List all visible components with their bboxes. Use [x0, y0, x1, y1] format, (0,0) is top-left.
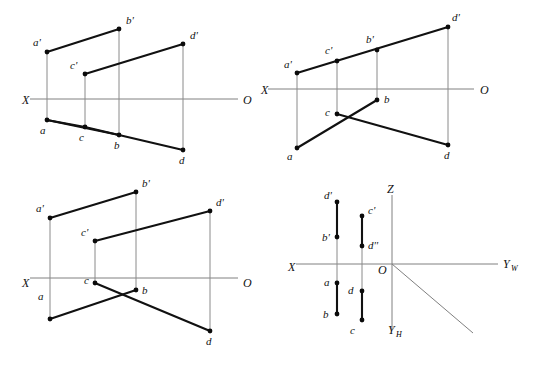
top-left-projection-vertex-label-dp: d' [190, 29, 199, 41]
bottom-left-projection-vertex-dot-d [208, 329, 213, 334]
top-left-projection-vertex-label-ap: a' [33, 36, 42, 48]
top-right-projection-vertex-dot-a [295, 146, 300, 151]
bottom-right-three-axis-projection-vertex-label-cp: c' [368, 204, 376, 216]
top-right-projection-vertex-dot-d [446, 143, 451, 148]
top-left-projection-vertex-dot-c [83, 125, 88, 130]
top-left-projection-axis-label-x: X [21, 93, 30, 107]
top-right-projection-edge-c-d [337, 114, 448, 145]
bottom-left-projection-edge-ap-bp [50, 192, 136, 218]
bottom-left-projection-vertex-dot-ap [48, 216, 53, 221]
bottom-right-three-axis-projection-axis-label-yh-base: Y [388, 323, 396, 337]
top-right-projection-vertex-label-cp: c' [325, 44, 333, 56]
bottom-right-three-axis-projection-vertex-dot-dp [335, 200, 340, 205]
top-left-projection-vertex-dot-cp [83, 72, 88, 77]
top-right-projection-axis-label-o: O [480, 83, 489, 97]
top-left-projection-vertex-label-a: a [40, 124, 46, 136]
bottom-left-projection-vertex-label-c: c [84, 274, 89, 286]
bottom-right-three-axis-projection: d'b'abc'd''dcXOZYWYH [287, 182, 519, 339]
bottom-left-projection-vertex-label-bp: b' [142, 177, 151, 189]
top-left-projection-edge-a-c [47, 120, 85, 127]
top-right-projection-vertex-dot-b [375, 98, 380, 103]
top-right-projection-vertex-label-ap: a' [284, 58, 293, 70]
bottom-left-projection: a'b'c'd'abcdXO [21, 177, 252, 347]
bottom-left-projection-vertex-label-cp: c' [81, 226, 89, 238]
top-right-projection-vertex-label-a: a [287, 150, 293, 162]
top-right-projection: a'c'b'd'acbdXO [260, 11, 489, 162]
bottom-right-three-axis-projection-vertex-label-bp: b' [322, 231, 331, 243]
top-left-projection-vertex-label-bp: b' [126, 14, 135, 26]
top-right-projection-vertex-dot-ap [295, 71, 300, 76]
bottom-right-three-axis-projection-axis-label-yh: YH [388, 323, 403, 339]
top-right-projection-vertex-label-bp: b' [366, 33, 375, 45]
top-right-projection-axis-label-x: X [260, 83, 269, 97]
bottom-right-three-axis-projection-vertex-label-dp: d' [324, 189, 333, 201]
top-left-projection-vertex-dot-d [181, 148, 186, 153]
bottom-right-three-axis-projection-axis-label-yw: YW [503, 257, 519, 273]
top-left-projection-axis-label-o: O [243, 93, 252, 107]
top-left-projection-vertex-dot-a [45, 118, 50, 123]
top-left-projection: a'b'c'd'abcdXO [21, 14, 252, 166]
bottom-left-projection-vertex-dot-dp [208, 209, 213, 214]
top-right-projection-vertex-dot-cp [335, 59, 340, 64]
bottom-left-projection-vertex-dot-b [134, 288, 139, 293]
top-left-projection-edge-cp-dp [85, 44, 183, 74]
bottom-left-projection-vertex-dot-bp [134, 190, 139, 195]
bottom-right-three-axis-projection-axis-label-origin: O [378, 263, 387, 277]
bottom-right-three-axis-projection-bisector-axis [392, 264, 473, 333]
top-left-projection-vertex-dot-bp [117, 27, 122, 32]
bottom-left-projection-edge-cp-dp [95, 211, 210, 241]
bottom-right-three-axis-projection-axis-label-x: X [287, 260, 296, 274]
bottom-right-three-axis-projection-vertex-dot-c [360, 318, 365, 323]
top-left-projection-vertex-dot-ap [45, 50, 50, 55]
top-left-projection-vertex-label-d: d [179, 154, 185, 166]
bottom-right-three-axis-projection-vertex-dot-bp [335, 235, 340, 240]
bottom-right-three-axis-projection-vertex-label-b: b [323, 308, 329, 320]
top-left-projection-vertex-label-cp: c' [70, 59, 78, 71]
bottom-right-three-axis-projection-vertex-dot-b [335, 312, 340, 317]
bottom-right-three-axis-projection-axis-label-yw-base: Y [503, 257, 511, 271]
top-right-projection-vertex-dot-bp [375, 48, 380, 53]
top-left-projection-vertex-label-c: c [79, 131, 84, 143]
bottom-right-three-axis-projection-axis-label-z: Z [387, 182, 394, 196]
bottom-left-projection-edge-c-d [95, 283, 210, 331]
top-left-projection-edge-ap-bp [47, 29, 119, 52]
bottom-left-projection-vertex-label-ap: a' [36, 202, 45, 214]
projection-drawing-canvas: a'b'c'd'abcdXOa'c'b'd'acbdXOa'b'c'd'abcd… [0, 0, 537, 365]
bottom-left-projection-vertex-dot-cp [93, 239, 98, 244]
top-right-projection-vertex-dot-dp [446, 25, 451, 30]
top-right-projection-vertex-label-dp: d' [452, 11, 461, 23]
bottom-left-projection-vertex-dot-c [93, 281, 98, 286]
top-left-projection-vertex-label-b: b [114, 139, 120, 151]
bottom-right-three-axis-projection-axis-label-yh-subscript: H [395, 330, 403, 339]
bottom-right-three-axis-projection-vertex-dot-d [360, 289, 365, 294]
bottom-right-three-axis-projection-vertex-label-c: c [350, 324, 355, 336]
bottom-left-projection-vertex-label-dp: d' [216, 196, 225, 208]
top-right-projection-vertex-label-d: d [444, 149, 450, 161]
bottom-right-three-axis-projection-axis-label-yw-subscript: W [511, 264, 519, 273]
top-left-projection-edge-c-b [85, 127, 119, 135]
top-right-projection-vertex-label-c: c [325, 106, 330, 118]
bottom-left-projection-vertex-label-d: d [206, 335, 212, 347]
bottom-left-projection-vertex-label-b: b [142, 284, 148, 296]
top-left-projection-vertex-dot-dp [181, 42, 186, 47]
top-left-projection-vertex-dot-b [117, 133, 122, 138]
bottom-right-three-axis-projection-vertex-label-a: a [324, 276, 330, 288]
top-left-projection-edge-b-d [119, 135, 183, 150]
bottom-right-three-axis-projection-vertex-dot-cp [360, 214, 365, 219]
bottom-left-projection-axis-label-o: O [243, 276, 252, 290]
bottom-left-projection-vertex-dot-a [48, 317, 53, 322]
top-right-projection-vertex-dot-c [335, 112, 340, 117]
bottom-right-three-axis-projection-vertex-dot-dpp [360, 244, 365, 249]
bottom-right-three-axis-projection-vertex-dot-a [335, 281, 340, 286]
projection-figure-sheet: a'b'c'd'abcdXOa'c'b'd'acbdXOa'b'c'd'abcd… [0, 0, 537, 365]
bottom-right-three-axis-projection-vertex-label-d: d [348, 284, 354, 296]
bottom-left-projection-axis-label-x: X [21, 276, 30, 290]
bottom-left-projection-vertex-label-a: a [38, 290, 44, 302]
bottom-right-three-axis-projection-vertex-label-dpp: d'' [368, 239, 379, 251]
top-right-projection-vertex-label-b: b [384, 93, 390, 105]
